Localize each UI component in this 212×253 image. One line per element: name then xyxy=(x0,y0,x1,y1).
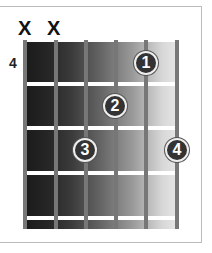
fret-line xyxy=(25,126,178,130)
string-2 xyxy=(54,40,58,229)
fret-line xyxy=(25,82,178,86)
fret-line xyxy=(25,171,178,175)
string-4 xyxy=(114,40,118,229)
string-1 xyxy=(23,40,27,229)
string-3 xyxy=(84,40,88,229)
muted-string-1-marker: X xyxy=(18,18,31,38)
fret-line xyxy=(25,216,178,220)
finger-1-marker: 1 xyxy=(134,51,158,75)
start-fret-number: 4 xyxy=(9,55,17,71)
finger-3-marker: 3 xyxy=(73,138,97,162)
finger-2-marker: 2 xyxy=(103,94,127,118)
muted-string-2-marker: X xyxy=(47,18,60,38)
string-6 xyxy=(175,40,179,229)
finger-4-marker: 4 xyxy=(165,138,189,162)
